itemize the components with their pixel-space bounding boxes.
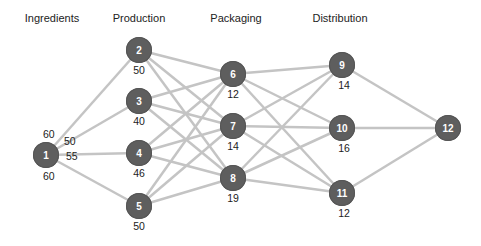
node-5-capacity: 50	[133, 220, 145, 232]
edge-1-5	[46, 155, 139, 206]
node-11-capacity: 12	[338, 207, 350, 219]
stage-distribution: Distribution	[312, 12, 367, 24]
node-8-capacity: 19	[227, 192, 239, 204]
node-6-capacity: 12	[227, 88, 239, 100]
node-9-capacity: 14	[338, 79, 350, 91]
node-6: 6	[220, 61, 246, 87]
node-4-capacity: 46	[133, 167, 145, 179]
node-11: 11	[329, 180, 355, 206]
node-8: 8	[220, 165, 246, 191]
edge-5-8	[139, 178, 233, 206]
node-2-capacity: 50	[133, 64, 145, 76]
node-3: 3	[126, 88, 152, 114]
node-3-capacity: 40	[133, 115, 145, 127]
edge-label-1-3: 50	[64, 135, 76, 147]
stage-packaging: Packaging	[210, 12, 261, 24]
edge-label-1-4: 55	[66, 150, 78, 162]
node-9: 9	[329, 52, 355, 78]
node-10: 10	[329, 115, 355, 141]
node-4: 4	[126, 140, 152, 166]
edge-11-12	[342, 128, 448, 193]
node-2: 2	[126, 37, 152, 63]
edge-8-11	[233, 178, 342, 193]
node-7: 7	[220, 113, 246, 139]
node-7-capacity: 14	[227, 140, 239, 152]
edge-6-9	[233, 65, 342, 74]
edge-3-6	[139, 74, 233, 101]
edge-7-9	[233, 65, 342, 126]
edges	[46, 50, 448, 206]
edge-6-11	[233, 74, 342, 193]
edge-label-1-2: 60	[43, 128, 55, 140]
node-10-capacity: 16	[338, 142, 350, 154]
edge-1-2	[46, 50, 139, 155]
edge-label-1-5: 60	[43, 170, 55, 182]
node-1: 1	[33, 142, 59, 168]
edge-9-12	[342, 65, 448, 128]
edge-1-3	[46, 101, 139, 155]
node-5: 5	[126, 193, 152, 219]
edge-7-10	[233, 126, 342, 128]
stage-ingredients: Ingredients	[25, 12, 79, 24]
node-12: 12	[435, 115, 461, 141]
stage-production: Production	[113, 12, 166, 24]
